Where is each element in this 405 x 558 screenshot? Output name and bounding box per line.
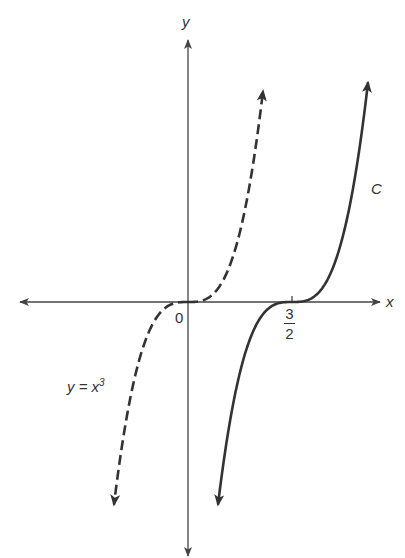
curve-c — [292, 83, 368, 302]
fraction-numerator: 3 — [285, 306, 293, 321]
curve-y-equals-x-cubed — [188, 91, 263, 302]
y-axis-label: y — [182, 14, 190, 29]
fraction-bar — [284, 323, 295, 324]
fraction-denominator: 2 — [285, 326, 293, 341]
curve-c-lower — [218, 302, 292, 505]
function-graph — [0, 0, 405, 558]
curve-c-label: C — [371, 181, 382, 196]
origin-label: 0 — [175, 310, 183, 325]
curve-x-cubed-label: y = x3 — [67, 378, 105, 394]
tick-label-three-halves: 3 2 — [284, 306, 295, 341]
label-exponent: 3 — [99, 377, 105, 388]
curve-y-equals-x-cubed-lower — [114, 302, 188, 505]
x-axis-label: x — [386, 294, 394, 309]
label-base: y = x — [67, 378, 99, 395]
